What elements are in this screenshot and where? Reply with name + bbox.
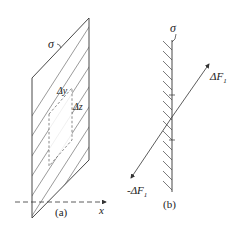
caption-b: (b): [163, 198, 176, 211]
area-element: [49, 88, 72, 166]
plane-hatching-b: [163, 41, 172, 190]
force-label-negative: -ΔF1: [127, 184, 147, 199]
caption-a: (a): [55, 206, 68, 219]
sigma-leader-b: [172, 34, 176, 42]
dz-label: Δz: [72, 101, 83, 112]
x-axis-label: x: [98, 204, 104, 216]
dy-label: Δy: [56, 85, 68, 96]
diagram-canvas: σ Δy Δz x (a): [0, 0, 238, 229]
force-arrow-negative: [131, 117, 172, 178]
sigma-label-a: σ: [48, 37, 55, 51]
figure-a: σ Δy Δz x (a): [10, 10, 106, 229]
sigma-label-b: σ: [170, 21, 177, 35]
force-arrow-positive: [172, 64, 209, 117]
force-label-positive: ΔF1: [209, 70, 227, 85]
sigma-leader-a: [57, 44, 61, 48]
figure-b: σ ΔF1 -ΔF1 (b): [127, 21, 227, 211]
